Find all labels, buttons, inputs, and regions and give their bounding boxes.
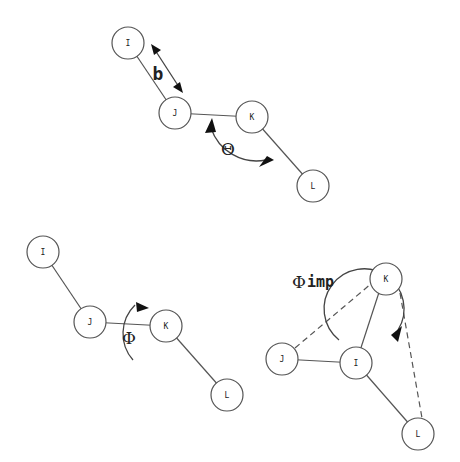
atom-k: K xyxy=(150,310,182,342)
atom-k: K xyxy=(236,101,268,133)
atom-i: I xyxy=(112,27,144,59)
atom-label: I xyxy=(126,39,131,48)
atom-l: L xyxy=(211,379,243,411)
atom-label: I xyxy=(41,248,46,257)
atom-j: J xyxy=(159,97,191,129)
molecular-geometry-diagram: b Θ I J K L Φ I xyxy=(0,0,460,462)
dihedral-angle-label: Φ xyxy=(122,328,136,348)
dihedral-diagram: Φ I J K L xyxy=(27,236,243,411)
atom-i: I xyxy=(340,347,372,379)
bond-angle-diagram: b Θ I J K L xyxy=(112,27,329,202)
bond-length-label: b xyxy=(153,63,164,84)
arrowhead-icon xyxy=(151,44,161,55)
dashed-j-k xyxy=(295,283,372,348)
arrowhead-icon xyxy=(136,302,149,312)
bond-angle-label: Θ xyxy=(221,139,235,159)
atom-l: L xyxy=(402,418,434,450)
atom-j: J xyxy=(74,306,106,338)
atom-label: L xyxy=(225,391,230,400)
atom-label: K xyxy=(164,322,169,331)
improper-angle-label: Φimp xyxy=(292,272,334,292)
atom-l: L xyxy=(297,170,329,202)
atom-label: I xyxy=(354,359,359,368)
arrowhead-icon xyxy=(391,326,402,342)
atom-label: J xyxy=(88,318,93,327)
atom-label: J xyxy=(173,109,178,118)
arrowhead-icon xyxy=(205,118,216,133)
atom-k: K xyxy=(370,263,402,295)
atom-label: K xyxy=(250,113,255,122)
arrowhead-icon xyxy=(173,82,183,93)
atom-i: I xyxy=(27,236,59,268)
atom-label: L xyxy=(416,430,421,439)
arrowhead-icon xyxy=(259,156,274,167)
atom-label: L xyxy=(311,182,316,191)
dashed-k-l xyxy=(400,293,422,418)
bond-angle-arc xyxy=(211,128,266,161)
improper-diagram: Φimp K J I L xyxy=(266,263,434,450)
atom-label: J xyxy=(280,355,285,364)
atom-label: K xyxy=(384,275,389,284)
atom-j: J xyxy=(266,343,298,375)
